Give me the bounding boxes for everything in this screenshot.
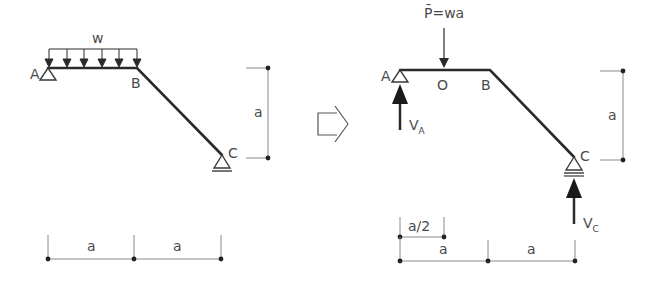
label-b-right: B [481, 77, 491, 93]
pin-support-a-icon [392, 70, 408, 82]
load-label-w: w [92, 30, 103, 46]
vertical-dimension-left: a [246, 66, 270, 161]
horizontal-dimension-left: a a [46, 235, 224, 261]
structure-diagram: w A B C a a a [0, 0, 647, 285]
label-vc: VC [583, 215, 599, 234]
horizontal-dimension-right: a a [398, 237, 578, 263]
left-structure: w A B C a a a [30, 30, 270, 261]
label-c: C [228, 145, 238, 161]
svg-text:a: a [87, 238, 96, 254]
svg-text:a: a [527, 241, 536, 257]
load-label-p: P̄=wa [424, 4, 464, 21]
svg-text:a: a [608, 107, 617, 123]
pin-support-a-icon [40, 68, 56, 80]
vertical-dimension-right: a [600, 69, 625, 163]
label-a-right: A [381, 68, 391, 84]
load-arrowhead-p-icon [439, 58, 449, 68]
svg-text:a/2: a/2 [408, 218, 430, 234]
svg-text:a: a [173, 238, 182, 254]
half-dimension: a/2 [398, 217, 447, 239]
label-a: A [30, 66, 40, 82]
label-o: O [437, 77, 448, 93]
svg-text:a: a [439, 241, 448, 257]
reaction-arrowhead-vc-icon [566, 178, 582, 198]
right-structure: P̄=wa A O B VA C VC a [381, 4, 625, 263]
reaction-arrowhead-va-icon [392, 84, 408, 104]
label-va: VA [409, 117, 426, 136]
svg-text:a: a [254, 104, 263, 120]
label-c-right: C [580, 148, 590, 164]
distributed-load-w [45, 49, 141, 67]
transform-arrow-icon [318, 106, 348, 142]
label-b: B [131, 75, 141, 91]
